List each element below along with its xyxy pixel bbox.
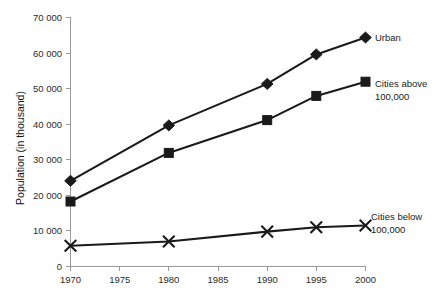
y-tick-label: 30 000 [33,154,62,165]
series-label-cities-below-line1: Cities below [371,211,422,222]
y-axis-title: Population (in thousand) [14,91,26,205]
series-cities-below-100000 [65,220,372,252]
x-tick-label: 1980 [158,274,179,285]
series-label-urban: Urban [375,32,401,43]
series-label-cities-above-line2: 100,000 [375,91,409,102]
y-axis-tick-labels: 70 000 60 000 50 000 40 000 30 000 20 00… [33,12,62,272]
x-tick-label: 1975 [109,274,130,285]
y-tick-label: 0 [57,261,62,272]
marker-square-group [66,77,370,206]
marker-diamond-group [65,32,372,186]
series-line-cities-below [71,226,366,246]
x-tick-label: 1970 [60,274,81,285]
x-tick-label: 1995 [306,274,327,285]
x-axis-tick-labels: 1970 1975 1980 1985 1990 1995 2000 [60,274,376,285]
series-label-cities-below-line2: 100,000 [371,224,405,235]
population-line-chart: 70 000 60 000 50 000 40 000 30 000 20 00… [0,0,433,299]
y-tick-label: 40 000 [33,119,62,130]
y-tick-label: 10 000 [33,225,62,236]
y-tick-label: 20 000 [33,190,62,201]
x-tick-label: 1985 [207,274,228,285]
series-label-cities-above-line1: Cities above [375,78,427,89]
chart-canvas: 70 000 60 000 50 000 40 000 30 000 20 00… [0,0,433,299]
series-cities-above-100000 [66,77,370,206]
y-tick-label: 60 000 [33,48,62,59]
y-tick-label: 50 000 [33,83,62,94]
x-tick-label: 2000 [355,274,376,285]
x-tick-label: 1990 [257,274,278,285]
y-tick-label: 70 000 [33,12,62,23]
series-urban [65,32,372,186]
series-line-urban [71,38,366,181]
y-axis-ticks [66,18,71,267]
x-axis-ticks [71,267,366,272]
